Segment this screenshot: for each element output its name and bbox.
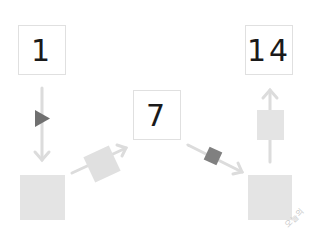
- number-label: 7: [146, 98, 168, 133]
- square-bottom-right: [248, 175, 292, 220]
- number-box-7: 7: [133, 90, 181, 140]
- number-label: 14: [247, 33, 291, 68]
- tilted-square-light-icon: [83, 145, 120, 182]
- number-box-14: 14: [245, 25, 293, 75]
- square-upright-light-icon: [257, 110, 284, 140]
- number-box-1: 1: [18, 25, 66, 75]
- square-bottom-left: [20, 175, 65, 220]
- number-label: 1: [31, 33, 53, 68]
- tilted-square-dark-icon: [204, 147, 223, 166]
